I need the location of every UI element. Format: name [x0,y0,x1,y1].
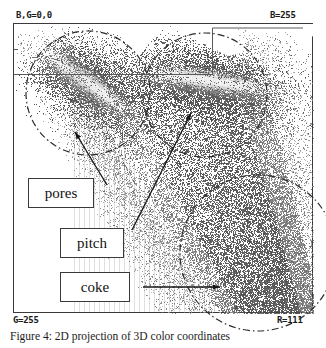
scatter-point-cloud [14,24,314,314]
callout-label-pores: pores [45,186,78,201]
scatter-plot-frame [13,23,313,313]
callout-label-pitch: pitch [77,236,107,251]
axis-label-top-left: B,G=0,0 [16,10,52,21]
callout-box-pores[interactable]: pores [28,178,94,208]
axis-label-bottom-left: G=255 [13,315,39,326]
axis-label-top-right: B=255 [270,10,296,21]
callout-label-coke: coke [81,280,109,295]
figure-caption: Figure 4: 2D projection of 3D color coor… [10,330,320,342]
callout-box-coke[interactable]: coke [60,272,130,302]
figure-container: B,G=0,0 B=255 B=156 G=43 G=255 R=111 por… [0,0,326,348]
callout-box-pitch[interactable]: pitch [60,228,124,258]
axis-label-bottom-right: R=111 [277,315,303,326]
